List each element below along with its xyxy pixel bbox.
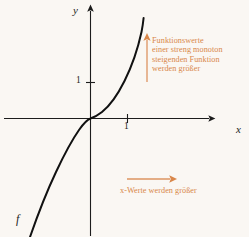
x-axis-label: x bbox=[236, 123, 241, 135]
function-graph-figure: y x f 1 1 Funktionswerte einer streng mo… bbox=[0, 0, 249, 237]
annotation-line-2: einer streng monoton bbox=[152, 45, 248, 54]
annotation-line-4: werden größer bbox=[152, 64, 248, 73]
annotation-line-1: Funktionswerte bbox=[152, 36, 248, 45]
x-axis-tick-label-1: 1 bbox=[124, 121, 129, 131]
y-axis-label: y bbox=[73, 4, 78, 16]
function-values-annotation: Funktionswerte einer streng monoton stei… bbox=[152, 36, 248, 73]
x-values-annotation: x-Werte werden größer bbox=[120, 186, 197, 195]
function-curve-label: f bbox=[16, 212, 19, 227]
annotation-line-3: steigenden Funktion bbox=[152, 55, 248, 64]
y-axis-tick-label-1: 1 bbox=[76, 75, 81, 85]
